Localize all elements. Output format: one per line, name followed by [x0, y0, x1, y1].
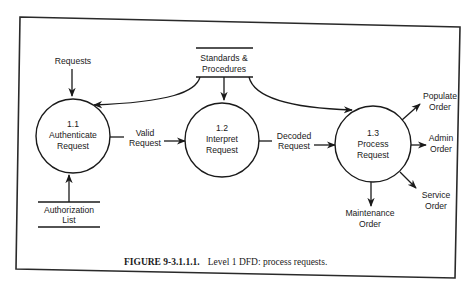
dfd-diagram: Requests Standards & Procedures 1.1 Auth… — [0, 0, 476, 295]
flow-maintenance-order: Maintenance Order — [345, 182, 394, 229]
figure-caption-text: Level 1 DFD: process requests. — [208, 257, 328, 267]
flow-label-line2: Order — [430, 144, 452, 154]
flow-label-line1: Populate — [423, 91, 457, 101]
process-name-line1: Process — [357, 139, 388, 149]
data-store-standards: Standards & Procedures — [196, 48, 253, 77]
flow-label-line1: Decoded — [277, 131, 312, 141]
flow-populate-order: Populate Order — [402, 91, 457, 120]
flow-label-line1: Admin — [429, 133, 454, 143]
process-1-2-interpret-request: 1.2 Interpret Request — [185, 103, 259, 177]
flow-decoded-request: Decoded Request — [259, 131, 335, 151]
flow-label-line2: Order — [429, 102, 451, 112]
data-store-authorization-list: Authorization List — [38, 175, 100, 227]
process-name-line2: Request — [57, 141, 90, 151]
flow-label-line2: Request — [129, 138, 162, 148]
flow-admin-order: Admin Order — [411, 133, 453, 154]
store-label-line2: List — [62, 215, 76, 225]
flow-service-order: Service Order — [400, 172, 451, 211]
flow-label-line1: Service — [422, 190, 451, 200]
process-id: 1.2 — [216, 123, 228, 133]
process-name-line1: Interpret — [206, 134, 239, 144]
process-name-line2: Request — [357, 150, 390, 160]
process-name-line1: Authenticate — [49, 130, 97, 140]
process-name-line2: Request — [206, 145, 239, 155]
figure-caption-label: FIGURE 9-3.1.1.1. — [124, 257, 200, 267]
flow-label-requests: Requests — [55, 56, 91, 66]
process-id: 1.3 — [367, 128, 379, 138]
arrow-service-order — [400, 172, 416, 188]
flow-label-line2: Order — [425, 201, 447, 211]
store-label-line1: Authorization — [44, 205, 94, 215]
arrow-standards-to-1-3 — [249, 77, 352, 110]
store-label-line2: Procedures — [202, 64, 246, 74]
figure-caption: FIGURE 9-3.1.1.1. Level 1 DFD: process r… — [124, 251, 327, 268]
flow-label-line2: Order — [359, 219, 381, 229]
flow-label-line1: Maintenance — [345, 208, 394, 218]
flow-label-line2: Request — [278, 141, 311, 151]
arrow-populate-order — [402, 104, 420, 120]
process-id: 1.1 — [67, 119, 79, 129]
flow-valid-request: Valid Request — [110, 128, 185, 148]
flow-requests: Requests — [55, 56, 91, 96]
store-label-line1: Standards & — [200, 53, 248, 63]
arrow-standards-to-1-1 — [94, 77, 200, 105]
process-1-3-process-request: 1.3 Process Request — [335, 106, 411, 182]
process-1-1-authenticate-request: 1.1 Authenticate Request — [36, 99, 110, 173]
flow-label-line1: Valid — [136, 128, 155, 138]
